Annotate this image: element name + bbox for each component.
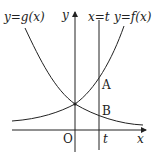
label-origin: O: [63, 132, 73, 146]
label-x-axis: x: [137, 132, 144, 146]
label-f-curve: y=f(x): [113, 10, 152, 24]
label-t-tick: t: [103, 132, 108, 146]
function-graph: y=g(x) y x=t y=f(x) A B O t x: [0, 0, 163, 156]
label-point-a: A: [101, 78, 111, 92]
label-point-b: B: [102, 104, 111, 118]
label-line-t: x=t: [88, 10, 110, 24]
intersection-point: [73, 102, 76, 105]
label-g-curve: y=g(x): [3, 10, 45, 24]
curve-g: [25, 28, 143, 125]
label-y-axis: y: [61, 8, 69, 22]
